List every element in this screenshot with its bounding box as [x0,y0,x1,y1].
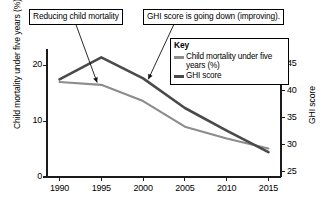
right-axis-tick-45: 45 [287,58,309,68]
legend-swatch-ghi-score [174,75,184,78]
legend-label-child-mortality: Child mortality under five years (%) [186,52,285,71]
x-axis-tick-1990: 1990 [43,183,77,193]
left-axis-tick-10: 10 [20,115,42,125]
legend: Key Child mortality under five years (%)… [170,38,289,85]
x-axis-tick-2010: 2010 [210,183,244,193]
right-axis-title: GHI score [307,73,317,137]
legend-label-ghi-score: GHI score [186,71,285,81]
legend-item-ghi-score: GHI score [174,71,285,81]
left-axis-title: Child mortality under five years (%) [12,37,22,129]
x-axis-tick-2005: 2005 [168,183,202,193]
x-axis-tick-1995: 1995 [84,183,118,193]
annotation-callout-child-mortality: Reducing child mortality [29,9,123,25]
legend-swatch-child-mortality [174,56,184,59]
x-axis-tick-2015: 2015 [251,183,285,193]
x-axis-tick-2000: 2000 [126,183,160,193]
annotation-callout-ghi-score: GHI score is going down (improving). [143,9,284,25]
right-axis-tick-25: 25 [287,166,309,176]
right-axis-tick-40: 40 [287,85,309,95]
right-axis-tick-35: 35 [287,112,309,122]
annotation-leader-lines [75,22,175,83]
legend-item-child-mortality: Child mortality under five years (%) [174,52,285,71]
left-axis-tick-20: 20 [20,59,42,69]
chart-container: 010202530354045199019952000200520102015 … [0,0,328,207]
legend-title: Key [174,41,285,51]
right-axis-tick-30: 30 [287,139,309,149]
plot-area [0,0,328,207]
left-axis-tick-0: 0 [20,171,42,181]
